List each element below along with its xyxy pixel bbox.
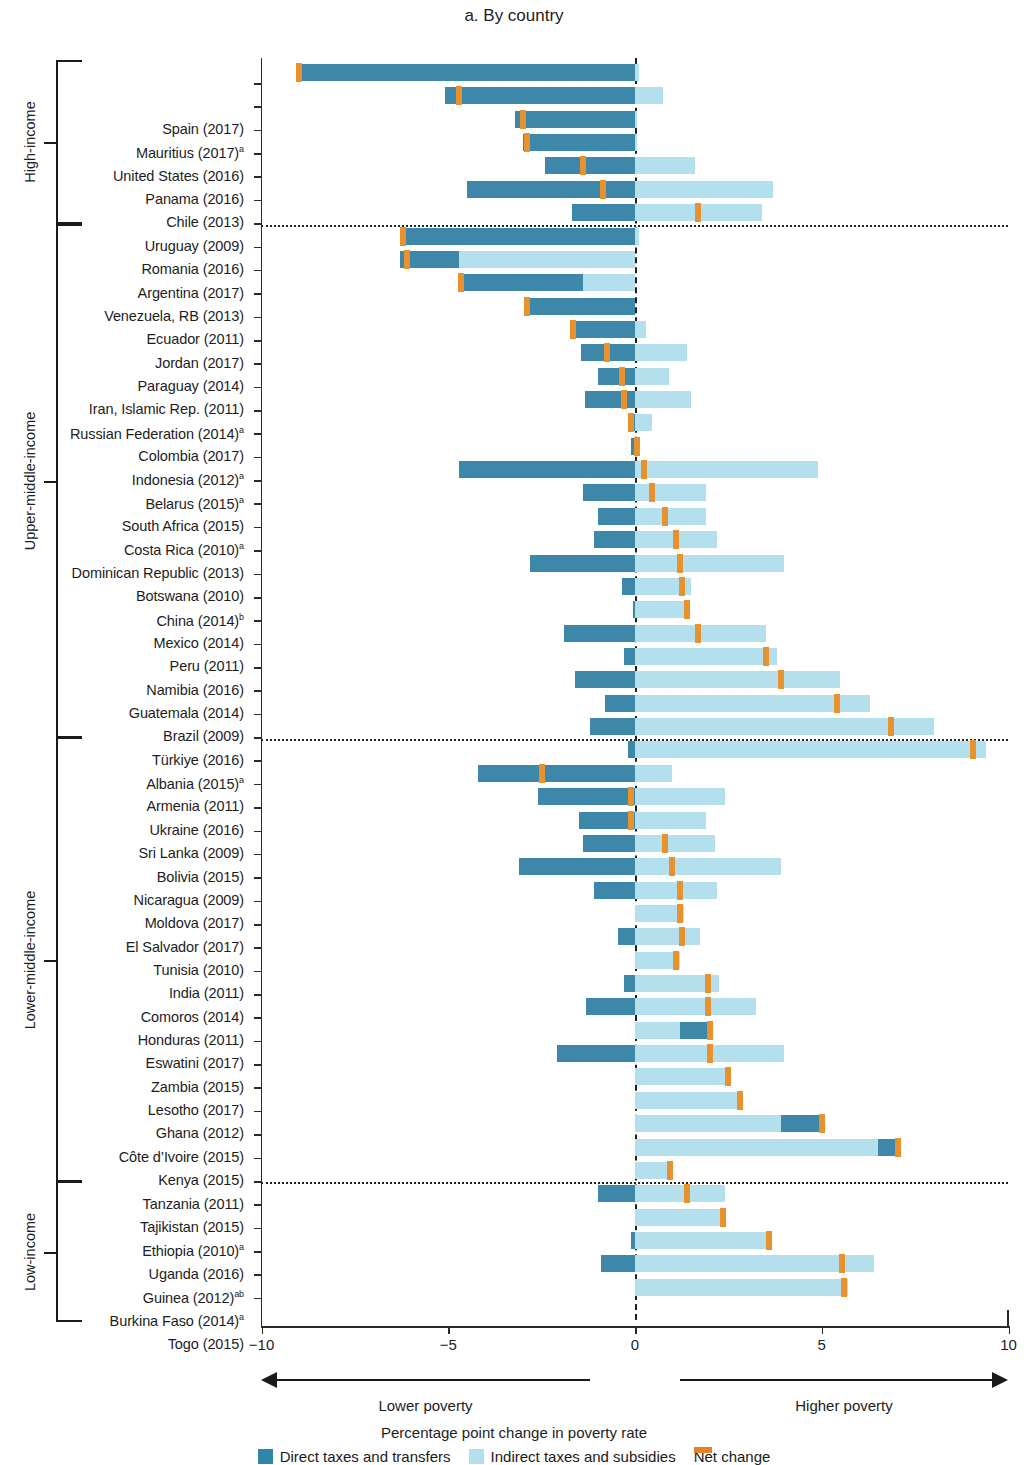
bar-row	[261, 1209, 1008, 1226]
bar-segment-indirect	[635, 1068, 728, 1085]
bar-row	[261, 788, 1008, 805]
bar-segment-direct	[633, 601, 635, 618]
chart-figure: a. By country Spain (2017)Mauritius (201…	[0, 0, 1028, 1465]
legend-item-net: Net change	[694, 1448, 771, 1465]
bar-row	[261, 531, 1008, 548]
country-label: Colombia (2017)	[138, 448, 244, 464]
bar-row	[261, 555, 1008, 572]
bar-segment-indirect	[635, 601, 689, 618]
net-change-marker	[679, 577, 685, 596]
x-axis-tick	[822, 1326, 824, 1334]
net-change-marker	[888, 717, 894, 736]
bar-row	[261, 601, 1008, 618]
bar-row	[261, 298, 1008, 315]
group-bracket-stem	[44, 481, 58, 483]
country-label: Mauritius (2017)a	[136, 144, 244, 161]
bar-segment-direct	[680, 1022, 710, 1039]
country-label: Ghana (2012)	[156, 1125, 244, 1141]
net-change-marker	[695, 624, 701, 643]
bar-segment-direct	[478, 765, 635, 782]
bar-row	[261, 111, 1008, 128]
group-label-text: Low-income	[22, 1213, 38, 1291]
net-change-marker	[604, 343, 610, 362]
country-label: Côte d’Ivoire (2015)	[119, 1149, 244, 1165]
bar-row	[261, 1162, 1008, 1179]
bar-row	[261, 998, 1008, 1015]
country-label: Nicaragua (2009)	[134, 892, 244, 908]
bar-row	[261, 1092, 1008, 1109]
bar-segment-indirect	[635, 1255, 874, 1272]
bar-row	[261, 391, 1008, 408]
bar-segment-indirect	[635, 1092, 741, 1109]
bar-segment-indirect	[635, 228, 639, 245]
bar-segment-indirect	[635, 998, 756, 1015]
country-label: Ukraine (2016)	[149, 822, 244, 838]
country-label: Lesotho (2017)	[148, 1102, 244, 1118]
net-change-marker	[673, 951, 679, 970]
bar-segment-direct	[594, 882, 635, 899]
bar-row	[261, 251, 1008, 268]
country-label: Tunisia (2010)	[153, 962, 244, 978]
bar-segment-direct	[467, 181, 635, 198]
net-change-marker	[679, 927, 685, 946]
bar-row	[261, 1279, 1008, 1296]
net-change-marker	[834, 694, 840, 713]
bar-row	[261, 1022, 1008, 1039]
bar-row	[261, 438, 1008, 455]
bar-segment-indirect	[635, 368, 669, 385]
bar-segment-direct	[572, 204, 635, 221]
bar-segment-indirect	[583, 274, 635, 291]
bar-row	[261, 578, 1008, 595]
bar-row	[261, 274, 1008, 291]
net-change-marker	[895, 1138, 901, 1157]
country-label: Ethiopia (2010)a	[142, 1242, 244, 1259]
net-change-marker	[649, 483, 655, 502]
country-label: Kenya (2015)	[158, 1172, 244, 1188]
bar-row	[261, 87, 1008, 104]
bar-segment-indirect	[635, 928, 700, 945]
bar-segment-indirect	[635, 1232, 771, 1249]
bar-segment-direct	[601, 1255, 635, 1272]
net-change-marker	[628, 413, 634, 432]
bar-segment-indirect	[635, 648, 777, 665]
bar-segment-direct	[515, 111, 635, 128]
x-axis-tick-label: 10	[1000, 1336, 1017, 1353]
higher-poverty-caption: Higher poverty	[795, 1397, 893, 1414]
bar-segment-direct	[538, 788, 635, 805]
bar-segment-direct	[579, 812, 635, 829]
x-axis-tick-label: −10	[249, 1336, 274, 1353]
bar-row	[261, 1068, 1008, 1085]
x-axis-title: Percentage point change in poverty rate	[0, 1424, 1028, 1441]
net-change-marker	[570, 320, 576, 339]
country-label: Uganda (2016)	[149, 1266, 244, 1282]
group-bracket-stem	[44, 1252, 58, 1254]
bar-row	[261, 765, 1008, 782]
bar-segment-indirect	[635, 321, 646, 338]
net-change-marker	[763, 647, 769, 666]
country-label: Ecuador (2011)	[147, 331, 244, 347]
bar-segment-direct	[527, 298, 635, 315]
bar-row	[261, 157, 1008, 174]
net-change-marker	[524, 297, 530, 316]
net-change-marker	[677, 904, 683, 923]
country-label: Peru (2011)	[170, 658, 244, 674]
country-label: El Salvador (2017)	[126, 939, 244, 955]
net-change-marker	[456, 86, 462, 105]
net-change-marker	[841, 1278, 847, 1297]
group-label-text: Lower-middle-income	[22, 890, 38, 1029]
bar-segment-indirect	[635, 1139, 878, 1156]
net-change-marker	[766, 1231, 772, 1250]
net-change-marker	[524, 133, 530, 152]
country-label: Armenia (2011)	[147, 798, 244, 814]
country-label: South Africa (2015)	[122, 518, 244, 534]
country-label: Türkiye (2016)	[152, 752, 244, 768]
net-change-marker	[684, 600, 690, 619]
bar-segment-indirect	[635, 1115, 781, 1132]
bar-segment-direct	[519, 858, 635, 875]
net-change-marker	[600, 180, 606, 199]
net-change-marker	[778, 670, 784, 689]
net-change-marker	[400, 227, 406, 246]
bar-segment-indirect	[635, 64, 639, 81]
bar-segment-direct	[598, 1185, 635, 1202]
legend-swatch-indirect-icon	[469, 1449, 484, 1464]
